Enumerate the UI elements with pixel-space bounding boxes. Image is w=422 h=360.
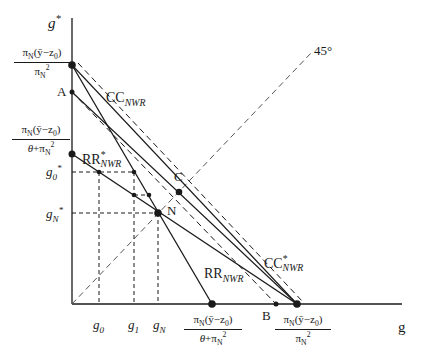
point-c [176,189,183,196]
point-rr-intercept [208,300,216,308]
point-n-label: N [167,204,176,217]
x-tick-cc-intercept: πN(ȳ−z0) πN2 [275,314,331,347]
cc-nwr-label: CCNWR [106,91,145,108]
point-mid [147,193,152,198]
point-g0-rr-star [97,170,102,175]
point-g1-rr-star [132,193,137,198]
y-tick-top: πN(ȳ−z0) πN2 [14,47,70,80]
rr-nwr-label: RRNWR [204,267,243,284]
x-axis-label: g [398,320,406,335]
point-b [274,302,279,307]
y-tick-g0-star: g0* [46,164,62,182]
x-tick-rr-intercept: πN(ȳ−z0) θ+πN2 [184,314,242,347]
point-cc-intercept [293,300,301,308]
point-n [154,209,162,217]
point-a-label: A [57,85,66,98]
cc-star-nwr-label: CC*NWR [264,254,303,273]
point-a [70,90,75,95]
y-tick-mid: πN(ȳ−z0) θ+πN2 [12,124,70,157]
point-c-label: C [174,170,183,183]
45-degree-label: 45° [314,44,332,57]
rr-star-nwr-label: RR*NWR [82,150,121,169]
point-g1-rr [132,170,137,175]
y-axis-label: g* [48,14,61,31]
x-tick-gN: gN [153,318,166,335]
y-tick-gN-star: gN* [46,206,63,224]
x-tick-g0: g0 [93,318,104,335]
point-b-label: B [262,309,271,322]
x-tick-g1: g1 [128,318,139,335]
